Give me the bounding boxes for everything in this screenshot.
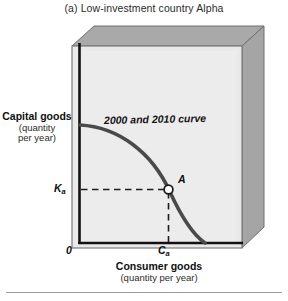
- origin-label: 0: [66, 245, 72, 257]
- k-label-subscript: a: [62, 187, 66, 196]
- c-label-main: C: [158, 244, 166, 256]
- x-axis-title: Consumer goods: [54, 261, 264, 273]
- ppf-curve: [80, 125, 205, 243]
- plot-overlay: [0, 0, 288, 301]
- k-axis-value-label: Ka: [54, 183, 66, 196]
- point-a-marker: [164, 185, 173, 194]
- k-label-main: K: [54, 182, 62, 194]
- c-label-subscript: a: [166, 249, 170, 258]
- x-axis-label: Consumer goods (quantity per year): [54, 261, 264, 283]
- x-axis-units: (quantity per year): [54, 273, 264, 284]
- bottom-divider: [6, 292, 282, 293]
- y-axis-units-line2: per year): [0, 133, 74, 144]
- point-a-label: A: [178, 174, 186, 186]
- y-axis-label: Capital goods (quantity per year): [0, 111, 74, 144]
- y-axis-title: Capital goods: [0, 111, 74, 123]
- curve-label: 2000 and 2010 curve: [104, 113, 206, 127]
- c-axis-value-label: Ca: [158, 245, 170, 258]
- figure-root: (a) Low-investment country Alpha Capital: [0, 0, 288, 301]
